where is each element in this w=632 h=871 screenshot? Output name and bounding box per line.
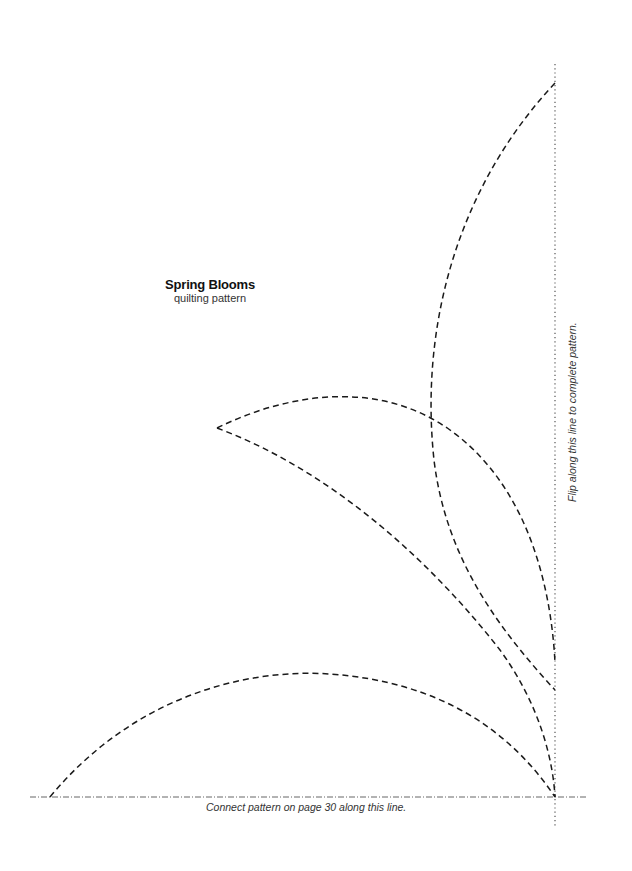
leaf-upper-edge <box>217 397 555 662</box>
pattern-title: Spring Blooms <box>140 277 280 292</box>
tall-petal-arc <box>431 83 555 690</box>
connect-instruction: Connect pattern on page 30 along this li… <box>206 801 406 813</box>
leaf-lower-edge <box>217 428 555 797</box>
flip-instruction: Flip along this line to complete pattern… <box>566 322 578 502</box>
bottom-arc <box>50 673 555 797</box>
pattern-subtitle: quilting pattern <box>140 292 280 305</box>
quilting-pattern-drawing <box>0 0 632 871</box>
pattern-page: Spring Blooms quilting pattern Connect p… <box>0 0 632 871</box>
pattern-title-block: Spring Blooms quilting pattern <box>140 277 280 305</box>
